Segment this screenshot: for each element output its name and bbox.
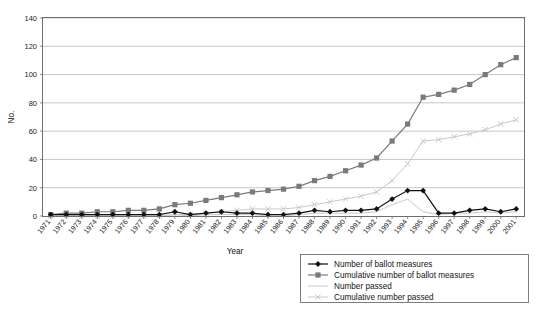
x-tick-label: 1989 [314,218,331,236]
y-tick-label: 20 [29,184,37,193]
data-point [188,201,193,206]
data-point [451,210,457,216]
y-tick-label: 120 [24,42,37,51]
data-point [250,189,255,194]
x-tick-label: 1997 [439,218,456,236]
chart-legend: Number of ballot measuresCumulative numb… [301,255,529,303]
data-point [390,138,395,143]
data-point [157,206,162,211]
legend-label-0: Number of ballot measures [334,260,432,269]
x-tick-label: 1996 [423,218,440,236]
legend-label-3: Cumulative number passed [334,293,434,302]
data-point [405,188,411,194]
data-point [421,95,426,100]
data-point [389,178,394,183]
x-tick-label: 1998 [454,218,471,236]
y-tick-label: 0 [33,212,37,221]
x-tick-label: 1978 [144,218,161,236]
x-tick-label: 1976 [113,218,130,236]
x-tick-label: 1992 [361,218,378,236]
y-axis-title: No. [7,111,16,124]
x-tick-label: 1986 [268,218,285,236]
series-line-3 [51,120,516,216]
data-point [467,207,473,213]
data-point [219,195,224,200]
x-tick-label: 1974 [82,218,99,236]
legend-label-1: Cumulative number of ballot measures [334,271,474,280]
data-point [296,184,301,189]
x-tick-label: 1987 [283,218,300,236]
data-point [312,207,318,213]
x-tick-label: 1994 [392,218,409,236]
data-point [389,196,395,202]
x-tick-label: 1990 [330,218,347,236]
legend-swatch-marker [315,272,320,277]
x-tick-label: 1991 [345,218,362,236]
plot-series-group [48,55,519,219]
legend-label-2: Number passed [334,282,392,291]
x-tick-label: 2000 [485,218,502,236]
y-tick-label: 60 [29,127,37,136]
x-tick-label: 1981 [190,218,207,236]
x-tick-label: 1982 [206,218,223,236]
x-tick-label: 1999 [470,218,487,236]
data-point [467,82,472,87]
data-point [234,210,240,216]
y-axis-ticks: 020406080100120140 [24,14,43,221]
data-point [327,174,332,179]
x-tick-label: 1983 [221,218,238,236]
data-point [358,207,364,213]
x-axis-title: Year [227,247,244,256]
data-point [172,202,177,207]
y-tick-label: 40 [29,155,37,164]
x-tick-label: 1993 [376,218,393,236]
x-tick-label: 2001 [501,218,518,236]
x-tick-label: 1984 [237,218,254,236]
data-point [513,206,519,212]
x-tick-label: 1980 [175,218,192,236]
y-tick-label: 80 [29,99,37,108]
data-point [312,178,317,183]
x-tick-label: 1973 [66,218,83,236]
data-point [343,207,349,213]
data-point [498,209,504,215]
data-point [482,206,488,212]
chart-svg: 020406080100120140 197119721973197419751… [0,0,544,312]
data-point [281,187,286,192]
data-point [498,62,503,67]
data-point [436,92,441,97]
x-tick-label: 1985 [252,218,269,236]
data-point [374,155,379,160]
y-tick-label: 140 [24,14,37,23]
data-point [327,209,333,215]
x-tick-label: 1995 [407,218,424,236]
data-point [172,209,178,215]
data-point [483,72,488,77]
data-point [203,198,208,203]
data-point [343,168,348,173]
data-point [234,192,239,197]
y-tick-label: 100 [24,70,37,79]
x-tick-label: 1977 [128,218,145,236]
x-axis-ticks: 1971197219731974197519761977197819791980… [35,216,518,236]
x-tick-label: 1979 [159,218,176,236]
gridlines [43,18,524,188]
x-tick-label: 1975 [97,218,114,236]
data-point [405,121,410,126]
data-point [405,161,410,166]
data-point [358,162,363,167]
chart-container: 020406080100120140 197119721973197419751… [0,0,544,312]
data-point [265,188,270,193]
data-point [452,88,457,93]
x-tick-label: 1988 [299,218,316,236]
x-tick-label: 1972 [51,218,68,236]
x-tick-label: 1971 [35,218,52,236]
data-point [514,55,519,60]
